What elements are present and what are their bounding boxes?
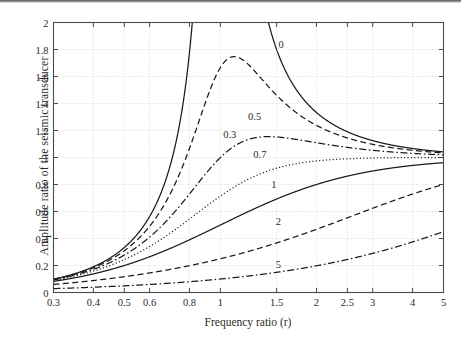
curve-label-zeta-1: 1 — [270, 179, 277, 190]
y-tick-label: 0.6 — [35, 206, 48, 217]
curve-label-zeta-0: 0 — [278, 40, 285, 51]
y-tick-label: 1.4 — [35, 98, 48, 109]
x-tick-label: 0.4 — [87, 297, 100, 308]
x-tick-label: 0.6 — [143, 297, 156, 308]
x-tick-label: 3 — [370, 297, 375, 308]
y-tick-label: 0.2 — [35, 260, 48, 271]
x-tick-label: 2.5 — [341, 297, 354, 308]
y-tick-label: 1.6 — [35, 71, 48, 82]
x-tick-label: 2 — [314, 297, 319, 308]
y-tick-label: 1 — [43, 152, 48, 163]
x-tick-label: 5 — [441, 297, 446, 308]
amplitude-ratio-plot — [0, 0, 461, 338]
x-tick-label: 4 — [410, 297, 415, 308]
x-tick-label: 1.5 — [270, 297, 283, 308]
curve-label-zeta-0.7: 0.7 — [252, 150, 267, 161]
curve-label-zeta-5: 5 — [275, 260, 282, 271]
curve-label-zeta-2: 2 — [275, 217, 282, 228]
y-tick-label: 0.8 — [35, 179, 48, 190]
y-tick-label: 1.2 — [35, 125, 48, 136]
y-tick-label: 0.4 — [35, 233, 48, 244]
figure-container: Amplitude ratio of the seismic transduce… — [0, 0, 461, 338]
x-tick-label: 0.5 — [118, 297, 131, 308]
curve-label-zeta-0.5: 0.5 — [247, 112, 262, 123]
x-tick-label: 1 — [218, 297, 223, 308]
y-tick-label: 2 — [43, 17, 48, 28]
x-tick-label: 0.3 — [47, 297, 60, 308]
x-tick-label: 0.8 — [183, 297, 196, 308]
y-tick-label: 1.8 — [35, 44, 48, 55]
curve-label-zeta-0.3: 0.3 — [222, 129, 237, 140]
x-axis-title: Frequency ratio (r) — [53, 316, 443, 328]
